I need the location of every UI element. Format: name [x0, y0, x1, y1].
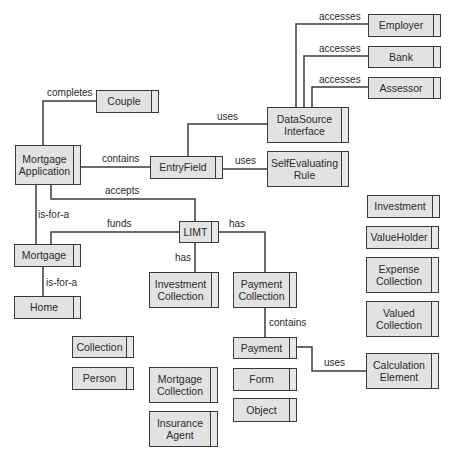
edge-label-contains: contains [102, 153, 139, 164]
class-box-tab-icon [211, 222, 218, 242]
class-box-tab-icon [341, 108, 348, 142]
connector-entryfield-to-datasource [188, 124, 267, 156]
class-box-tab-icon [289, 399, 296, 421]
class-box-employer[interactable]: Employer [368, 14, 441, 37]
class-name: Insurance Agent [150, 412, 210, 446]
connector-mortgage-application-to-couple [43, 101, 96, 145]
class-name: Investment Collection [150, 273, 211, 307]
class-box-tab-icon [433, 15, 440, 36]
class-name: DataSource Interface [268, 108, 341, 142]
edge-label-has: has [175, 252, 191, 263]
edge-label-accesses: accesses [319, 11, 361, 22]
edge-label-funds: funds [107, 218, 131, 229]
class-box-tab-icon [215, 157, 222, 178]
class-box-mortgage-application[interactable]: Mortgage Application [15, 145, 81, 185]
class-box-insurance-agent[interactable]: Insurance Agent [149, 411, 218, 447]
class-name: Collection [73, 337, 126, 357]
class-name: Form [234, 369, 289, 390]
class-name: Payment [234, 338, 289, 358]
class-box-tab-icon [126, 368, 133, 389]
connector-limt-to-payment-collection [219, 232, 265, 272]
class-box-selfevaluating[interactable]: SelfEvaluating Rule [267, 151, 349, 187]
class-box-form[interactable]: Form [233, 368, 297, 391]
connector-datasource-to-assessor [312, 87, 368, 107]
class-box-couple[interactable]: Couple [96, 90, 159, 113]
class-box-assessor[interactable]: Assessor [368, 77, 441, 99]
class-name: Payment Collection [234, 273, 289, 307]
edge-label-has: has [229, 218, 245, 229]
class-box-valued-collection[interactable]: Valued Collection [366, 301, 439, 337]
class-name: ValueHolder [367, 227, 431, 248]
edge-label-uses: uses [324, 357, 345, 368]
class-box-mortgage-collection[interactable]: Mortgage Collection [149, 367, 218, 403]
class-box-object[interactable]: Object [233, 398, 297, 422]
class-name: Valued Collection [367, 302, 431, 336]
class-name: Bank [369, 47, 433, 67]
class-diagram: EmployerBankAssessorCoupleDataSource Int… [0, 0, 453, 455]
class-box-tab-icon [433, 47, 440, 67]
class-name: Mortgage Application [16, 146, 73, 184]
connector-limt-to-mortgage [51, 232, 179, 244]
class-box-person[interactable]: Person [72, 367, 134, 390]
edge-label-is-for-a: is-for-a [38, 209, 69, 220]
class-name: LIMT [180, 222, 211, 242]
class-box-tab-icon [210, 412, 217, 446]
class-box-payment[interactable]: Payment [233, 337, 297, 359]
edge-label-accesses: accesses [319, 74, 361, 85]
class-name: Person [73, 368, 126, 389]
class-name: Object [234, 399, 289, 421]
class-box-expense-collection[interactable]: Expense Collection [366, 257, 439, 293]
class-box-tab-icon [433, 78, 440, 98]
class-box-collection[interactable]: Collection [72, 336, 134, 358]
class-box-investment-collection[interactable]: Investment Collection [149, 272, 219, 308]
class-box-tab-icon [151, 91, 158, 112]
class-box-tab-icon [289, 273, 296, 307]
class-name: Couple [97, 91, 151, 112]
class-box-investment[interactable]: Investment [367, 195, 440, 218]
class-name: Mortgage Collection [150, 368, 210, 402]
class-box-tab-icon [126, 337, 133, 357]
class-box-tab-icon [341, 152, 348, 186]
class-box-payment-collection[interactable]: Payment Collection [233, 272, 297, 308]
class-box-tab-icon [211, 273, 218, 307]
class-name: EntryField [151, 157, 215, 178]
class-box-tab-icon [431, 302, 438, 336]
class-box-tab-icon [431, 258, 438, 292]
class-box-tab-icon [73, 297, 80, 318]
class-box-tab-icon [289, 369, 296, 390]
class-name: SelfEvaluating Rule [268, 152, 341, 186]
class-name: Home [15, 297, 73, 318]
edge-label-accesses: accesses [319, 43, 361, 54]
class-name: Investment [368, 196, 432, 217]
class-box-tab-icon [73, 245, 80, 266]
class-box-entryfield[interactable]: EntryField [150, 156, 223, 179]
edge-label-is-for-a: is-for-a [46, 277, 77, 288]
edge-label-contains: contains [269, 317, 306, 328]
class-box-valueholder[interactable]: ValueHolder [366, 226, 439, 249]
edge-label-uses: uses [235, 155, 256, 166]
class-name: Calculation Element [367, 354, 431, 388]
class-box-tab-icon [289, 338, 296, 358]
class-name: Assessor [369, 78, 433, 98]
class-box-limt[interactable]: LIMT [179, 221, 219, 243]
class-box-calculation-element[interactable]: Calculation Element [366, 353, 439, 389]
class-box-tab-icon [431, 227, 438, 248]
class-name: Mortgage [15, 245, 73, 266]
edge-label-uses: uses [217, 111, 238, 122]
class-box-tab-icon [431, 354, 438, 388]
class-box-bank[interactable]: Bank [368, 46, 441, 68]
edge-label-completes: completes [47, 87, 93, 98]
class-box-mortgage[interactable]: Mortgage [14, 244, 81, 267]
connector-datasource-to-employer [296, 24, 368, 107]
class-box-tab-icon [432, 196, 439, 217]
class-box-datasource[interactable]: DataSource Interface [267, 107, 349, 143]
edge-label-accepts: accepts [105, 185, 139, 196]
class-name: Expense Collection [367, 258, 431, 292]
class-box-home[interactable]: Home [14, 296, 81, 319]
class-box-tab-icon [210, 368, 217, 402]
class-box-tab-icon [73, 146, 80, 184]
class-name: Employer [369, 15, 433, 36]
